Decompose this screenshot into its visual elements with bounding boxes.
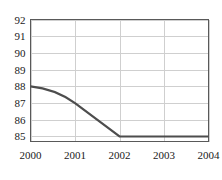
y-axis-tick-label: 86	[15, 114, 27, 126]
x-axis-tick-label: 2000	[20, 149, 43, 161]
line-chart: 8586878889909192 20002001200220032004	[0, 0, 222, 180]
y-axis-tick-label: 92	[15, 14, 26, 26]
x-axis-tick-label: 2001	[64, 149, 86, 161]
x-axis-tick-label: 2002	[109, 149, 131, 161]
y-axis-tick-label: 87	[15, 97, 27, 109]
chart-canvas: 8586878889909192 20002001200220032004	[0, 0, 222, 180]
y-axis-tick-label: 90	[15, 47, 27, 59]
x-axis-tick-label: 2004	[198, 149, 221, 161]
y-axis-tick-label: 85	[15, 130, 27, 142]
x-axis-tick-label: 2003	[153, 149, 176, 161]
y-axis-tick-label: 88	[15, 80, 27, 92]
y-axis-tick-label: 91	[15, 30, 26, 42]
y-axis-tick-label: 89	[15, 64, 27, 76]
